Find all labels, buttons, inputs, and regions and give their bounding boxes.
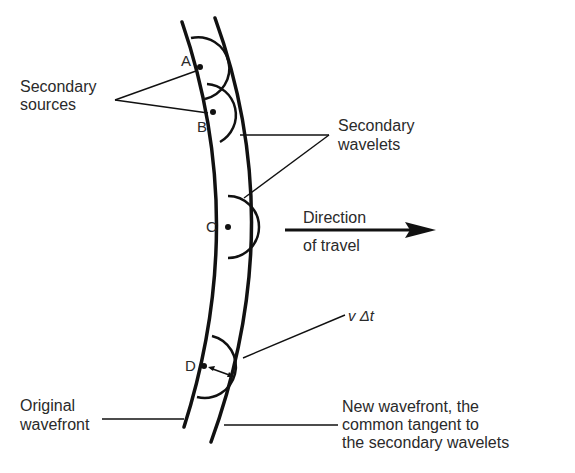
secondary-wavelets-label-line2: wavelets [337,136,400,153]
vdt-leader [243,315,345,358]
wavelet-c [228,196,259,258]
point-a-label: A [181,52,191,69]
point-b-dot [210,109,216,115]
original-wavefront-label-line2: wavefront [19,416,90,433]
point-d-dot [201,363,207,369]
point-d-label: D [185,357,196,374]
point-c-label: C [206,218,217,235]
wavelets-leader-c [244,135,329,198]
direction-label-line2: of travel [303,237,360,254]
original-wavefront-label-line1: Original [20,397,75,414]
v-delta-t-label: v Δt [348,307,375,324]
point-b-label: B [197,118,207,135]
secondary-wavelets-label-line1: Secondary [338,117,415,134]
new-wavefront-label-line1: New wavefront, the [342,398,479,415]
direction-label-line1: Direction [303,209,366,226]
new-wavefront-label-line3: the secondary wavelets [342,434,509,451]
sources-leader-a [115,71,196,100]
point-c-dot [225,224,231,230]
huygens-diagram: A B C D Secondary sources Secondary wave… [0,0,575,473]
vdt-arrow-head-left [208,366,215,371]
point-a-dot [197,64,203,70]
new-wavefront-label-line2: common tangent to [342,416,479,433]
secondary-sources-label-line2: sources [20,96,76,113]
secondary-sources-label-line1: Secondary [20,78,97,95]
sources-leader-b [115,100,208,113]
